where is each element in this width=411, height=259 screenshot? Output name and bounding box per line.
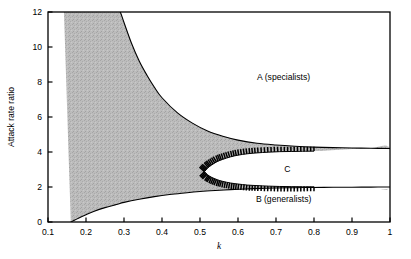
x-tick-label: 0.5	[194, 227, 206, 237]
x-tick-label: 0.1	[42, 227, 54, 237]
bifurcation-chart: 0.10.20.30.40.50.60.70.80.91 024681012 k…	[0, 0, 411, 259]
x-tick-label: 0.7	[270, 227, 282, 237]
y-tick-label: 2	[37, 182, 42, 192]
x-tick-label: 1	[388, 227, 393, 237]
hatch-tick	[246, 185, 247, 191]
y-tick-label: 6	[37, 112, 42, 122]
hatch-tick	[246, 148, 247, 153]
x-tick-label: 0.2	[80, 227, 92, 237]
hatch-tick	[233, 183, 234, 189]
hatch-tick	[238, 149, 239, 155]
x-tick-label: 0.3	[118, 227, 130, 237]
hatch-tick	[252, 148, 253, 153]
region-label-b: B (generalists)	[256, 194, 312, 204]
x-tick-label: 0.8	[308, 227, 320, 237]
hatch-tick	[249, 148, 250, 153]
y-axis-title: Attack rate ratio	[6, 87, 16, 147]
hatch-tick	[243, 149, 244, 155]
y-tick-label: 0	[37, 217, 42, 227]
y-tick-label: 10	[32, 42, 42, 52]
y-tick-label: 4	[37, 147, 42, 157]
hatch-tick	[236, 184, 237, 190]
hatch-tick	[241, 149, 242, 155]
region-label-c: C	[284, 164, 290, 174]
y-tick-label: 12	[32, 7, 42, 17]
hatch-tick	[231, 183, 232, 189]
x-tick-label: 0.4	[156, 227, 168, 237]
figure-container: 0.10.20.30.40.50.60.70.80.91 024681012 k…	[0, 0, 411, 259]
region-label-a: A (specialists)	[257, 72, 310, 82]
x-tick-label: 0.6	[232, 227, 244, 237]
x-tick-label: 0.9	[346, 227, 358, 237]
y-tick-label: 8	[37, 77, 42, 87]
